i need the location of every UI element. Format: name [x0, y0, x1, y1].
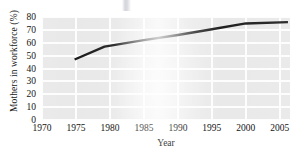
plot-area [42, 17, 290, 120]
scan-artifact [122, 0, 131, 11]
x-tick-label: 2005 [260, 123, 300, 134]
y-tick-label: 70 [10, 25, 36, 35]
y-tick-label: 30 [10, 76, 36, 86]
y-tick-label: 20 [10, 89, 36, 99]
x-axis-title: Year [42, 138, 290, 148]
y-tick-label: 40 [10, 64, 36, 74]
series-line-mothers-in-workforce [75, 22, 288, 59]
chart-figure: Mothers in workforce (%) 010203040506070… [0, 0, 305, 158]
data-series-line [42, 17, 290, 120]
y-tick-label: 50 [10, 51, 36, 61]
y-tick-label: 60 [10, 38, 36, 48]
y-tick-label: 80 [10, 12, 36, 22]
y-tick-label: 10 [10, 102, 36, 112]
